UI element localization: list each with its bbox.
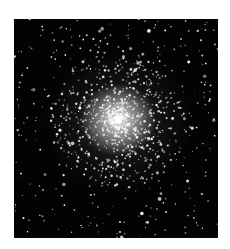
star-field bbox=[14, 19, 218, 238]
star-cluster-photo bbox=[14, 19, 218, 238]
